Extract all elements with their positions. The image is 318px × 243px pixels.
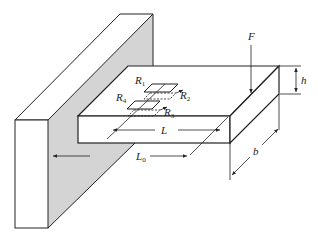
dimension-h: h bbox=[280, 66, 307, 94]
beam-front-face bbox=[78, 116, 230, 143]
label-b: b bbox=[253, 145, 259, 157]
wall-front-face bbox=[15, 120, 48, 228]
label-h: h bbox=[301, 74, 307, 86]
label-L: L bbox=[160, 124, 167, 136]
cantilever-diagram: R1 R2 R3 R4 L L0 F h b bbox=[0, 0, 318, 243]
label-F: F bbox=[247, 30, 255, 42]
label-L0: L0 bbox=[135, 150, 146, 164]
